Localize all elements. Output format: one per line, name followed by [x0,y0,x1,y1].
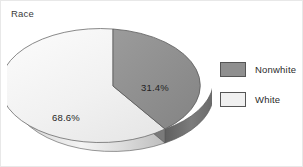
slice-label-nonwhite: 31.4% [141,82,169,93]
pie-svg [7,21,212,161]
legend-swatch-nonwhite [220,62,246,77]
chart-title: Race [11,8,34,19]
legend-item-white[interactable]: White [220,90,300,108]
slice-label-white: 68.6% [52,112,80,123]
pie-chart-figure: Race [0,0,303,167]
chart-legend: Nonwhite White [220,60,300,120]
legend-item-nonwhite[interactable]: Nonwhite [220,60,300,78]
pie-chart-graphic: 31.4% 68.6% [7,21,212,161]
legend-label-nonwhite: Nonwhite [255,64,296,75]
legend-label-white: White [255,94,280,105]
legend-swatch-white [220,92,246,107]
